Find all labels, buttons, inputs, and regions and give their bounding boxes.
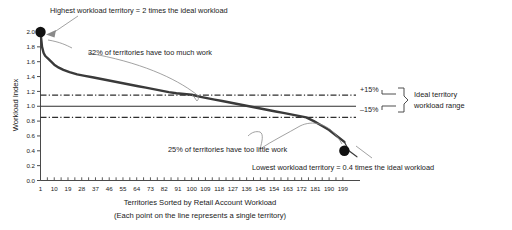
x-tick-label: 118 (214, 185, 224, 192)
too-much-work-annotation: 32% of territories have too much work (88, 48, 212, 57)
y-tick-label: 0.4 (26, 147, 35, 154)
x-axis-ticks: 1101928374655647382911001091181271361451… (39, 177, 349, 191)
y-tick-label: 1.4 (26, 73, 35, 80)
y-tick-label: 0.2 (26, 162, 35, 169)
x-tick-label: 190 (324, 185, 335, 192)
x-tick-label: 181 (310, 185, 321, 192)
x-tick-label: 37 (92, 185, 99, 192)
y-axis-ticks: 0.00.20.40.60.81.01.21.41.61.82.0 (26, 28, 40, 184)
y-tick-label: 0.8 (26, 117, 35, 124)
minus-15-percent-label: –15% (360, 105, 379, 114)
y-tick-label: 1.8 (26, 43, 35, 50)
y-tick-label: 0.0 (26, 177, 35, 184)
x-tick-label: 172 (296, 185, 307, 192)
minus15-tick-connector (382, 106, 396, 110)
lowest-workload-annotation: Lowest workload territory = 0.4 times th… (252, 163, 434, 172)
lowest-workload-point (339, 146, 349, 156)
ideal-range-label-line1: Ideal territory (414, 90, 457, 99)
y-tick-label: 2.0 (26, 28, 35, 35)
x-tick-label: 19 (65, 185, 72, 192)
x-tick-label: 10 (51, 185, 58, 192)
x-tick-label: 145 (255, 185, 266, 192)
y-tick-label: 1.6 (26, 58, 35, 65)
x-tick-label: 199 (338, 185, 349, 192)
x-tick-label: 163 (283, 185, 294, 192)
highest-workload-annotation: Highest workload territory = 2 times the… (50, 6, 228, 15)
x-tick-label: 46 (106, 185, 113, 192)
x-axis-subtitle: (Each point on the line represents a sin… (114, 211, 287, 220)
x-tick-label: 55 (120, 185, 127, 192)
highest-workload-point (35, 27, 45, 37)
too-little-work-annotation: 25% of territories have too little work (168, 145, 287, 154)
y-tick-label: 0.6 (26, 132, 35, 139)
ideal-range-label-line2: workload range (413, 101, 465, 110)
x-tick-label: 1 (39, 185, 43, 192)
chart-svg: 0.00.20.40.60.81.01.21.41.61.82.0 110192… (0, 0, 512, 230)
x-tick-label: 91 (174, 185, 181, 192)
x-tick-label: 136 (241, 185, 252, 192)
too-much-work-leader-left (48, 40, 72, 48)
annotation-leaders (46, 16, 372, 158)
lowest-workload-leader (356, 146, 372, 158)
x-tick-label: 82 (161, 185, 168, 192)
y-axis-title: Workload Index (11, 78, 20, 131)
x-tick-label: 109 (200, 185, 211, 192)
plus-15-percent-label: +15% (360, 85, 379, 94)
x-tick-label: 127 (228, 185, 239, 192)
y-tick-label: 1.2 (26, 88, 35, 95)
x-tick-label: 64 (133, 185, 140, 192)
highest-workload-arrowhead (46, 30, 56, 38)
x-tick-label: 73 (147, 185, 154, 192)
workload-index-chart: 0.00.20.40.60.81.01.21.41.61.82.0 110192… (0, 0, 512, 230)
x-tick-label: 154 (269, 185, 280, 192)
highest-workload-arrow (48, 17, 73, 34)
x-axis-title: Territories Sorted by Retail Account Wor… (124, 198, 277, 207)
x-tick-label: 28 (78, 185, 85, 192)
y-tick-label: 1.0 (26, 102, 35, 109)
plus15-tick-connector (382, 90, 396, 94)
ideal-range-brace (398, 88, 408, 112)
ideal-range-bracket (382, 88, 408, 112)
x-tick-label: 100 (187, 185, 198, 192)
